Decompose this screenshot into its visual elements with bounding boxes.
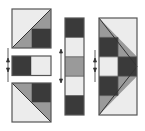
five-patch-column — [65, 18, 84, 115]
two-patch-strip — [12, 56, 51, 76]
middle-join-arrows — [60, 49, 63, 83]
left-join-arrows — [7, 48, 10, 82]
right-join-arrows — [94, 50, 97, 82]
quilt-assembly-diagram — [0, 0, 145, 131]
flying-geese-block — [99, 18, 137, 115]
half-square-bottom — [12, 83, 51, 122]
half-square-top — [12, 9, 51, 48]
